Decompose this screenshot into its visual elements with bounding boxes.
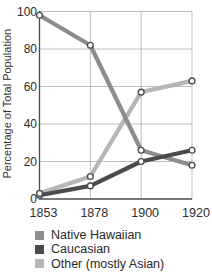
data-point-native-hawaiian-1900 [138, 147, 144, 153]
y-tick-label-80: 80 [24, 42, 38, 56]
data-point-caucasian-1920 [189, 147, 195, 153]
y-tick-label-20: 20 [24, 155, 38, 169]
series-line-caucasian [40, 150, 193, 195]
legend-swatch-caucasian [35, 245, 44, 254]
legend-item-native-hawaiian: Native Hawaiian [35, 228, 164, 242]
data-point-other-mostly-asian-1920 [189, 78, 195, 84]
legend-item-caucasian: Caucasian [35, 242, 164, 256]
y-tick-label-100: 100 [17, 5, 37, 19]
series-line-native-hawaiian [40, 15, 193, 165]
y-tick-label-40: 40 [24, 117, 38, 131]
line-chart: 0204060801001853187819001920 [0, 0, 212, 222]
data-point-caucasian-1900 [138, 159, 144, 165]
legend-label-native-hawaiian: Native Hawaiian [51, 228, 141, 242]
x-tick-label-1920: 1920 [182, 206, 210, 220]
data-point-native-hawaiian-1878 [87, 42, 93, 48]
data-point-native-hawaiian-1853 [37, 12, 43, 18]
legend-swatch-native-hawaiian [35, 231, 44, 240]
legend-item-other: Other (mostly Asian) [35, 257, 164, 271]
data-point-other-mostly-asian-1900 [138, 89, 144, 95]
y-tick-label-60: 60 [24, 80, 38, 94]
legend-label-caucasian: Caucasian [51, 242, 110, 256]
legend-label-other: Other (mostly Asian) [51, 257, 164, 271]
data-point-native-hawaiian-1920 [189, 162, 195, 168]
legend-swatch-other [35, 259, 44, 268]
x-tick-label-1878: 1878 [80, 206, 108, 220]
population-chart-panel: Percentage of Total Population 020406080… [0, 0, 212, 274]
x-tick-label-1900: 1900 [131, 206, 159, 220]
data-point-other-mostly-asian-1853 [37, 190, 43, 196]
data-point-other-mostly-asian-1878 [87, 174, 93, 180]
data-point-caucasian-1878 [87, 183, 93, 189]
x-tick-label-1853: 1853 [30, 206, 58, 220]
legend: Native Hawaiian Caucasian Other (mostly … [35, 228, 164, 271]
